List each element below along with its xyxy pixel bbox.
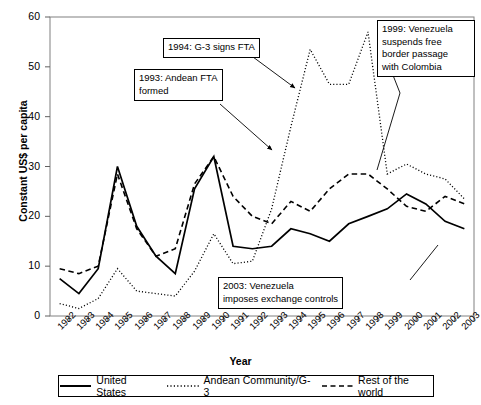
annotation-leader-2003	[410, 245, 438, 280]
legend-label: Rest of the world	[358, 374, 433, 398]
y-axis-tick-label: 0	[14, 309, 40, 321]
annotation-1994-g3-signs-fta: 1994: G-3 signs FTA	[163, 38, 260, 58]
annotation-leader-1993	[220, 104, 272, 150]
legend-label: United States	[96, 374, 156, 398]
series-line-united-states	[60, 157, 465, 294]
annotation-2003-venezuela-exchange-controls: 2003: Venezuela imposes exchange control…	[218, 277, 343, 309]
legend-item-united-states: United States	[59, 374, 156, 398]
legend-swatch-dotted	[166, 381, 198, 391]
y-axis-tick-label: 20	[14, 209, 40, 221]
annotation-arrows	[220, 57, 438, 280]
annotation-leader-1999	[377, 93, 400, 170]
y-axis-tick-label: 10	[14, 259, 40, 271]
chart-figure: Constant US$ per capita Year 1994: G-3 s…	[0, 0, 481, 405]
legend-swatch-dashed	[321, 381, 353, 391]
chart-legend: United States Andean Community/G-3 Rest …	[58, 375, 434, 397]
x-axis-title: Year	[0, 355, 481, 367]
legend-item-rest-of-the-world: Rest of the world	[321, 374, 433, 398]
legend-swatch-solid	[59, 381, 91, 391]
y-axis-tick-label: 50	[14, 60, 40, 72]
legend-item-andean-community-g3: Andean Community/G-3	[166, 374, 311, 398]
y-axis-ticks	[45, 17, 50, 316]
y-axis-tick-label: 30	[14, 160, 40, 172]
annotation-1999-venezuela-suspends-border: 1999: Venezuela suspends free border pas…	[377, 20, 475, 77]
y-axis-tick-label: 60	[14, 10, 40, 22]
legend-label: Andean Community/G-3	[204, 374, 311, 398]
annotation-leader-1994	[253, 57, 295, 88]
y-axis-tick-label: 40	[14, 110, 40, 122]
annotation-1993-andean-fta-formed: 1993: Andean FTA formed	[134, 69, 223, 101]
